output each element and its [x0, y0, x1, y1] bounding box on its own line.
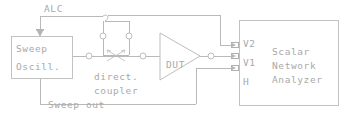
analyzer-label-2: Network	[272, 61, 316, 71]
port-connector-v1	[231, 54, 239, 59]
port-label-v1: V1	[243, 58, 256, 68]
dut-label: DUT	[166, 60, 185, 70]
analyzer-label-3: Analyzer	[272, 75, 323, 85]
sweep-out-label: Sweep out	[48, 100, 105, 110]
alc-feedback-wire	[36, 16, 103, 37]
analyzer-label-1: Scalar	[272, 47, 310, 57]
alc-label: ALC	[44, 4, 63, 14]
sweep-oscillator-label-2: Oscill.	[16, 62, 60, 72]
device-under-test-symbol	[160, 33, 200, 80]
sweep-oscillator-label-1: Sweep	[16, 44, 48, 54]
port-label-v2: V2	[243, 39, 256, 49]
main-signal-line	[73, 53, 160, 59]
port-connector-h	[231, 66, 239, 71]
dut-to-v1-wire	[200, 53, 232, 59]
wire-crossing-hop	[103, 15, 108, 21]
coupled-port-to-v2-wire	[108, 15, 232, 45]
directional-coupler-symbol	[100, 21, 132, 61]
port-connector-v2	[231, 43, 239, 48]
port-label-h: H	[243, 77, 249, 87]
coupler-label-1: direct.	[94, 72, 138, 82]
diagram-canvas: ALC Sweep Oscill. direct. coupler DUT Sw…	[0, 0, 351, 117]
coupler-label-2: coupler	[94, 86, 138, 96]
